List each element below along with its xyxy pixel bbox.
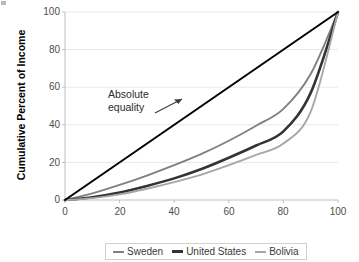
legend-label-bolivia: Bolivia [269, 247, 298, 257]
legend-entry-united-states[interactable]: United States [172, 247, 246, 257]
legend-line-icon-united-states [172, 250, 183, 253]
annotation-line-2: equality [108, 101, 149, 114]
legend-label-sweden: Sweden [127, 247, 163, 257]
legend-line-icon-bolivia [255, 251, 266, 253]
series-lines [65, 12, 338, 200]
annotation-absolute-equality: Absolute equality [108, 88, 149, 114]
annotation-arrow-icon [155, 99, 182, 113]
legend-label-united-states: United States [186, 247, 246, 257]
legend-entry-bolivia[interactable]: Bolivia [255, 247, 298, 257]
chart-legend: Sweden United States Bolivia [105, 243, 307, 260]
lorenz-curve-chart: Cumulative Percent of Income 100 80 60 4… [0, 0, 359, 262]
gridlines [65, 12, 338, 162]
legend-entry-sweden[interactable]: Sweden [113, 247, 163, 257]
legend-line-icon-sweden [113, 251, 124, 253]
annotation-line-1: Absolute [108, 88, 149, 101]
plot-area [0, 0, 359, 262]
series-line-absolute-equality [65, 12, 338, 200]
